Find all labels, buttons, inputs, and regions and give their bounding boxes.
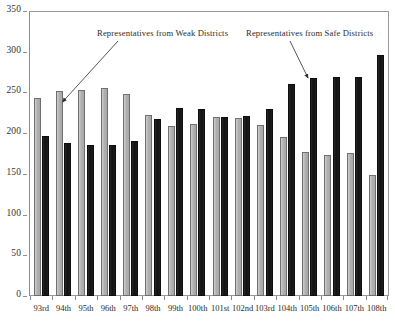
bar-safe-102nd xyxy=(243,116,250,296)
y-axis-tick-mark xyxy=(23,11,27,12)
x-axis-tick-mark xyxy=(120,296,121,300)
y-axis-tick-mark xyxy=(23,255,27,256)
bar-safe-100th xyxy=(198,109,205,296)
x-axis-tick-mark xyxy=(231,296,232,300)
x-axis-tick-label: 97th xyxy=(123,303,138,314)
x-axis-tick-mark xyxy=(187,296,188,300)
x-axis-tick-mark xyxy=(30,296,31,300)
bar-safe-98th xyxy=(154,119,161,296)
y-axis-tick-label: 150 xyxy=(6,167,21,177)
x-axis-tick-mark xyxy=(75,296,76,300)
bar-weak-102nd xyxy=(235,118,242,297)
bar-chart: 350 300 250 200 150 100 50 0 xyxy=(0,0,395,329)
bar-series-container xyxy=(30,12,388,296)
bar-safe-108th xyxy=(377,55,384,296)
x-axis xyxy=(29,296,389,302)
x-axis-tick-label: 98th xyxy=(145,303,160,314)
x-axis-tick-label: 100th xyxy=(188,303,207,314)
bar-weak-100th xyxy=(190,124,197,296)
x-axis-tick-label: 104th xyxy=(278,303,297,314)
y-axis-tick-label: 50 xyxy=(11,248,21,258)
x-axis-tick-mark xyxy=(299,296,300,300)
y-axis-tick-mark xyxy=(23,52,27,53)
y-axis-tick-label: 350 xyxy=(6,4,21,14)
y-axis-tick-mark xyxy=(23,174,27,175)
y-axis-tick-label: 250 xyxy=(6,85,21,95)
bar-weak-103rd xyxy=(257,125,264,296)
bar-weak-97th xyxy=(123,94,130,296)
x-axis-tick-mark xyxy=(276,296,277,300)
x-axis-tick-mark xyxy=(209,296,210,300)
bar-safe-97th xyxy=(131,141,138,296)
bar-safe-107th xyxy=(355,77,362,296)
bar-safe-101st xyxy=(221,117,228,296)
x-axis-tick-mark xyxy=(254,296,255,300)
bar-weak-107th xyxy=(347,153,354,296)
x-axis-tick-label: 99th xyxy=(168,303,183,314)
y-axis-tick-mark xyxy=(23,296,27,297)
bar-safe-93rd xyxy=(42,136,49,296)
x-axis-tick-label: 103rd xyxy=(255,303,275,314)
bar-weak-96th xyxy=(101,88,108,296)
bar-safe-95th xyxy=(87,145,94,296)
bar-weak-106th xyxy=(324,155,331,296)
x-axis-tick-label: 95th xyxy=(78,303,93,314)
x-axis-tick-mark xyxy=(142,296,143,300)
x-axis-tick-label: 107th xyxy=(345,303,364,314)
y-axis-tick-mark xyxy=(23,133,27,134)
bar-weak-95th xyxy=(78,90,85,296)
x-axis-tick-mark xyxy=(343,296,344,300)
weak-districts-annotation: Representatives from Weak Districts xyxy=(97,28,228,39)
y-axis-tick-label: 200 xyxy=(6,126,21,136)
bar-weak-101st xyxy=(213,117,220,296)
bar-safe-104th xyxy=(288,84,295,296)
x-axis-tick-mark xyxy=(164,296,165,300)
x-axis-tick-mark xyxy=(97,296,98,300)
bar-weak-93rd xyxy=(34,98,41,296)
bar-weak-108th xyxy=(369,175,376,296)
bar-weak-99th xyxy=(168,126,175,296)
bar-weak-104th xyxy=(280,137,287,296)
y-axis-tick-mark xyxy=(23,92,27,93)
bar-safe-96th xyxy=(109,145,116,296)
y-axis: 350 300 250 200 150 100 50 0 xyxy=(0,0,29,296)
y-axis-tick-label: 100 xyxy=(6,208,21,218)
bar-weak-98th xyxy=(145,115,152,296)
x-axis-tick-label: 96th xyxy=(101,303,116,314)
x-axis-tick-label: 106th xyxy=(322,303,341,314)
y-axis-tick-label: 0 xyxy=(16,289,21,299)
bar-safe-103rd xyxy=(266,109,273,296)
x-axis-tick-mark xyxy=(52,296,53,300)
x-axis-tick-label: 102nd xyxy=(232,303,253,314)
x-axis-tick-label: 93rd xyxy=(33,303,49,314)
bar-safe-105th xyxy=(310,78,317,296)
bar-safe-94th xyxy=(64,143,71,296)
x-axis-tick-label: 94th xyxy=(56,303,71,314)
y-axis-tick-mark xyxy=(23,215,27,216)
bar-weak-105th xyxy=(302,152,309,296)
bar-safe-106th xyxy=(333,77,340,296)
x-axis-tick-label: 101st xyxy=(211,303,229,314)
y-axis-tick-label: 300 xyxy=(6,45,21,55)
bar-safe-99th xyxy=(176,108,183,296)
x-axis-tick-label: 108th xyxy=(367,303,386,314)
bar-weak-94th xyxy=(56,91,63,296)
x-axis-tick-label: 105th xyxy=(300,303,319,314)
x-axis-tick-mark xyxy=(321,296,322,300)
safe-districts-annotation: Representatives from Safe Districts xyxy=(246,28,373,39)
x-axis-tick-mark xyxy=(387,296,388,300)
x-axis-labels: 93rd94th95th96th97th98th99th100th101st10… xyxy=(29,303,389,319)
x-axis-tick-mark xyxy=(366,296,367,300)
